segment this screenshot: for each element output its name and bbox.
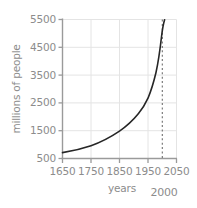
xtick-label-1750: 1750	[78, 165, 104, 177]
xtick-label-2050: 2050	[164, 165, 190, 177]
xtick-label-1650: 1650	[50, 165, 76, 177]
ytick-label-2500: 2500	[30, 96, 56, 108]
xtick-label-1950: 1950	[135, 165, 161, 177]
y-axis-title: millions of people	[10, 44, 22, 133]
ytick-label-5500: 5500	[30, 13, 56, 25]
chart-svg: 5500 4500 3500 2500 1500 500 1650 1750 1…	[0, 0, 197, 208]
annotation-2000-label: 2000	[150, 186, 177, 199]
ytick-label-3500: 3500	[30, 69, 56, 81]
ytick-label-4500: 4500	[30, 41, 56, 53]
xtick-label-1850: 1850	[107, 165, 133, 177]
ytick-label-1500: 1500	[30, 124, 56, 136]
population-growth-chart: 5500 4500 3500 2500 1500 500 1650 1750 1…	[0, 0, 197, 208]
ytick-label-500: 500	[37, 152, 56, 164]
x-axis-title: years	[108, 182, 136, 194]
